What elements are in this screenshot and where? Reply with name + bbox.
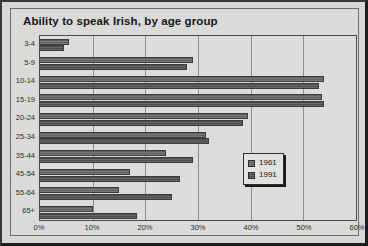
x-axis-tick-20%: 20% xyxy=(137,223,152,232)
bar-1991-25-34 xyxy=(40,138,209,144)
y-axis-tick-55-64: 55-64 xyxy=(16,184,35,203)
x-axis-tick-10%: 10% xyxy=(84,223,99,232)
y-axis-tick-5-9: 5-9 xyxy=(24,54,35,73)
bar-row xyxy=(40,73,356,92)
bar-row xyxy=(40,110,356,129)
plot-area xyxy=(39,35,357,221)
bar-1961-5-9 xyxy=(40,57,193,63)
bar-row xyxy=(40,185,356,204)
x-axis-tick-50%: 50% xyxy=(296,223,311,232)
x-axis-tick-60%: 60% xyxy=(349,223,364,232)
legend-swatch-icon xyxy=(248,172,255,179)
bar-1991-10-14 xyxy=(40,83,319,89)
legend-label: 1991 xyxy=(259,169,277,181)
y-axis-tick-3-4: 3-4 xyxy=(24,35,35,54)
bar-1961-45-54 xyxy=(40,169,130,175)
chart-legend: 19611991 xyxy=(243,153,284,185)
legend-label: 1961 xyxy=(259,157,277,169)
y-axis-tick-20-24: 20-24 xyxy=(16,109,35,128)
bar-row xyxy=(40,36,356,55)
bar-row xyxy=(40,148,356,167)
bar-1961-20-24 xyxy=(40,113,248,119)
y-axis-labels: 3-45-910-1415-1920-2425-3435-4445-5455-6… xyxy=(11,35,37,221)
bar-1991-5-9 xyxy=(40,64,187,70)
bar-1991-65+ xyxy=(40,213,137,219)
y-axis-tick-10-14: 10-14 xyxy=(16,72,35,91)
y-axis-tick-25-34: 25-34 xyxy=(16,128,35,147)
bar-1991-45-54 xyxy=(40,176,180,182)
chart-title: Ability to speak Irish, by age group xyxy=(23,15,218,27)
bar-1961-65+ xyxy=(40,206,93,212)
bar-1991-35-44 xyxy=(40,157,193,163)
bar-1961-35-44 xyxy=(40,150,166,156)
bar-1991-55-64 xyxy=(40,194,172,200)
y-axis-tick-15-19: 15-19 xyxy=(16,91,35,110)
y-axis-tick-45-54: 45-54 xyxy=(16,165,35,184)
bar-1961-3-4 xyxy=(40,39,69,45)
bar-1991-3-4 xyxy=(40,45,64,51)
y-axis-tick-65+: 65+ xyxy=(22,202,35,221)
bar-1991-20-24 xyxy=(40,120,243,126)
chart-window: Ability to speak Irish, by age group 3-4… xyxy=(0,0,368,246)
bar-1961-55-64 xyxy=(40,187,119,193)
bar-row xyxy=(40,92,356,111)
legend-swatch-icon xyxy=(248,160,255,167)
bar-1961-15-19 xyxy=(40,94,322,100)
bar-row xyxy=(40,55,356,74)
legend-item-1991: 1991 xyxy=(248,169,277,181)
bar-1961-25-34 xyxy=(40,132,206,138)
x-axis-tick-40%: 40% xyxy=(243,223,258,232)
x-axis-labels: 0%10%20%30%40%50%60% xyxy=(39,223,357,237)
bar-rows xyxy=(40,36,356,220)
legend-item-1961: 1961 xyxy=(248,157,277,169)
bar-1991-15-19 xyxy=(40,101,324,107)
chart-panel: Ability to speak Irish, by age group 3-4… xyxy=(10,8,359,236)
bar-1961-10-14 xyxy=(40,76,324,82)
y-axis-tick-35-44: 35-44 xyxy=(16,147,35,166)
bar-row xyxy=(40,166,356,185)
bar-row xyxy=(40,129,356,148)
x-axis-tick-0%: 0% xyxy=(34,223,45,232)
bar-row xyxy=(40,203,356,222)
x-axis-tick-30%: 30% xyxy=(190,223,205,232)
